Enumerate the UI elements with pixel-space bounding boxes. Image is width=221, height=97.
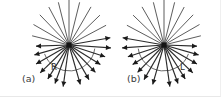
arrowhead-b-11 (128, 53, 134, 58)
arrowhead-b-13 (123, 36, 128, 41)
ray-b-17 (153, 2, 164, 45)
ray-b-19 (164, 2, 175, 45)
ray-b-0 (164, 45, 170, 87)
ray-a-19 (58, 2, 69, 45)
arrowhead-a-6 (36, 43, 41, 48)
ray-diagram-figure: R(a)L(b) (0, 0, 221, 97)
radius-label-b: L (180, 62, 185, 72)
ray-b-23 (164, 36, 201, 45)
panel-label-a: (a) (22, 73, 35, 84)
ray-a-23 (32, 36, 69, 45)
panel-b: L(b) (122, 0, 201, 87)
ray-a-21 (40, 15, 69, 45)
hub-b (162, 43, 167, 48)
panel-a: R(a) (22, 0, 111, 87)
ray-a-17 (69, 2, 80, 45)
arrowhead-b-12 (122, 45, 127, 50)
arrowhead-a-12 (106, 45, 111, 50)
radius-label-a: R (51, 62, 57, 72)
arrowhead-a-11 (100, 53, 106, 58)
ray-a-0 (63, 45, 69, 87)
ray-b-21 (164, 15, 193, 45)
arrowhead-b-0 (167, 81, 172, 86)
panel-label-b: (b) (127, 73, 140, 84)
arrowhead-a-0 (61, 81, 66, 86)
arrowhead-a-13 (105, 36, 110, 41)
arrowhead-b-6 (192, 43, 197, 48)
ray-diagram-canvas: R(a)L(b) (0, 0, 221, 97)
hub-a (67, 43, 72, 48)
